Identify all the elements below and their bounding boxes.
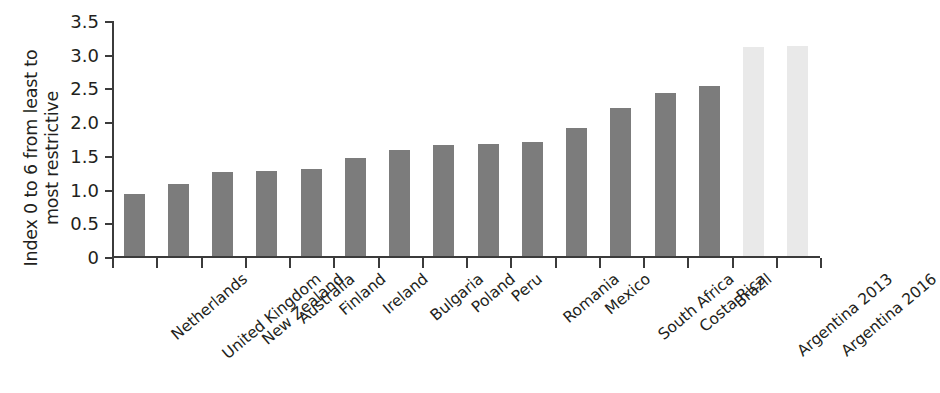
bar — [743, 47, 764, 256]
x-axis-tick — [378, 258, 380, 268]
bar — [655, 93, 676, 256]
y-axis-tick-label: 2.5 — [70, 79, 99, 100]
bar — [610, 108, 631, 256]
x-axis-tick — [466, 258, 468, 268]
bar — [433, 145, 454, 256]
y-axis-title-line-2: most restrictive — [42, 91, 63, 225]
y-axis-tick: 3.0 — [105, 55, 114, 57]
y-axis-tick-label: 0.5 — [70, 213, 99, 234]
y-axis-tick-label: 1.5 — [70, 146, 99, 167]
bar — [124, 194, 145, 256]
bar — [522, 142, 543, 256]
bar — [256, 171, 277, 256]
x-axis-tick — [776, 258, 778, 268]
y-axis-title: Index 0 to 6 from least to most restrict… — [14, 18, 70, 298]
y-axis-tick-label: 1.0 — [70, 180, 99, 201]
y-axis-tick-label: 3.0 — [70, 45, 99, 66]
x-axis-tick — [333, 258, 335, 268]
x-axis-category-label: Peru — [508, 270, 546, 306]
x-axis-category-label: Ireland — [380, 270, 432, 318]
y-axis-tick: 2.5 — [105, 88, 114, 90]
x-axis-tick — [732, 258, 734, 268]
x-axis-tick — [156, 258, 158, 268]
bar — [345, 158, 366, 256]
bar — [389, 150, 410, 256]
bar — [699, 86, 720, 256]
x-axis-tick — [687, 258, 689, 268]
bar — [478, 144, 499, 256]
x-axis-tick — [510, 258, 512, 268]
bar — [566, 128, 587, 256]
bar — [301, 169, 322, 256]
bar — [212, 172, 233, 256]
x-axis-tick — [555, 258, 557, 268]
y-axis-tick-label: 3.5 — [70, 11, 99, 32]
x-axis-tick — [820, 258, 822, 268]
y-axis-title-line-1: Index 0 to 6 from least to — [21, 50, 42, 267]
x-axis-tick — [289, 258, 291, 268]
y-axis-tick: 1.0 — [105, 190, 114, 192]
x-axis-tick — [245, 258, 247, 268]
x-axis-tick — [112, 258, 114, 268]
y-axis-tick-label: 2.0 — [70, 112, 99, 133]
y-axis-tick: 3.5 — [105, 21, 114, 23]
x-axis-tick — [599, 258, 601, 268]
y-axis-tick: 1.5 — [105, 156, 114, 158]
x-axis-tick — [643, 258, 645, 268]
y-axis-tick: 2.0 — [105, 122, 114, 124]
y-axis-tick-label: 0 — [88, 247, 99, 268]
bar — [168, 184, 189, 256]
plot-area: 00.51.01.52.02.53.03.5 — [112, 20, 820, 258]
x-axis-tick — [201, 258, 203, 268]
x-axis-tick — [422, 258, 424, 268]
y-axis-tick: 0.5 — [105, 223, 114, 225]
bar — [787, 46, 808, 256]
